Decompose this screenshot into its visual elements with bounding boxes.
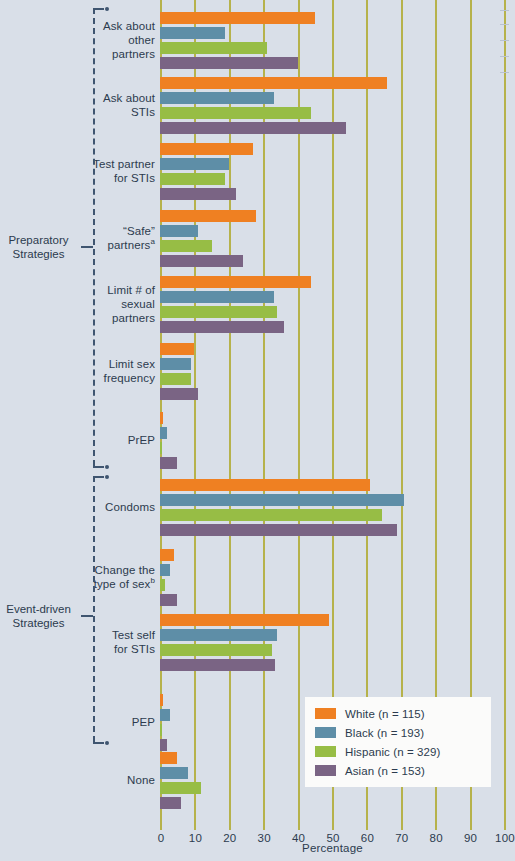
bar <box>160 57 298 69</box>
x-tick-label-40: 40 <box>292 832 305 844</box>
bar <box>160 579 165 591</box>
bar <box>160 158 229 170</box>
bar-group <box>160 77 505 134</box>
category-label: Test selffor STIs <box>112 628 155 656</box>
bar <box>160 494 404 506</box>
bar <box>160 240 212 252</box>
bar-group <box>160 343 505 400</box>
page-edge-mark <box>500 24 509 25</box>
legend-label: Asian (n = 153) <box>345 765 425 777</box>
bar <box>160 739 167 751</box>
category-label: None <box>127 773 155 787</box>
legend-item: White (n = 115) <box>315 704 482 723</box>
bar-group <box>160 479 505 536</box>
bar <box>160 659 275 671</box>
group-bracket-dot <box>105 741 109 745</box>
bar <box>160 210 256 222</box>
category-label: Ask aboutotherpartners <box>103 19 155 61</box>
category-label: Condoms <box>105 500 155 514</box>
bar-group <box>160 210 505 267</box>
x-tick-50 <box>332 818 334 830</box>
x-tick-label-20: 20 <box>223 832 236 844</box>
x-tick-label-80: 80 <box>430 832 443 844</box>
group-bracket-label: PreparatoryStrategies <box>0 233 77 261</box>
x-tick-20 <box>229 818 231 830</box>
legend-item: Black (n = 193) <box>315 723 482 742</box>
group-bracket-label: Event-drivenStrategies <box>0 602 77 630</box>
bar <box>160 358 191 370</box>
group-bracket-end <box>93 466 104 468</box>
bar <box>160 782 201 794</box>
bar <box>160 457 177 469</box>
bar <box>160 388 198 400</box>
bar <box>160 614 329 626</box>
bar <box>160 373 191 385</box>
bar-group <box>160 143 505 200</box>
bar <box>160 343 194 355</box>
bar <box>160 255 243 267</box>
plot-area <box>160 0 505 818</box>
group-bracket-connector <box>81 246 93 248</box>
group-bracket-end <box>93 8 104 10</box>
bar <box>160 752 177 764</box>
bar <box>160 797 181 809</box>
group-bracket-dot <box>105 465 109 469</box>
x-tick-label-0: 0 <box>158 832 165 844</box>
x-tick-label-90: 90 <box>464 832 477 844</box>
group-bracket-end <box>93 742 104 744</box>
bar <box>160 306 277 318</box>
group-bracket-dot <box>105 7 109 11</box>
bar-group <box>160 614 505 671</box>
bar <box>160 594 177 606</box>
bar <box>160 291 274 303</box>
bar <box>160 724 162 736</box>
legend-label: Hispanic (n = 329) <box>345 746 440 758</box>
x-tick-label-70: 70 <box>395 832 408 844</box>
bar <box>160 767 188 779</box>
bar-group <box>160 412 505 469</box>
bar <box>160 276 311 288</box>
legend-swatch-icon <box>315 765 336 776</box>
x-tick-80 <box>435 818 437 830</box>
category-label: Test partnerfor STIs <box>93 157 155 185</box>
x-tick-label-50: 50 <box>326 832 339 844</box>
group-bracket-line <box>93 476 95 742</box>
page-edge-mark <box>500 10 509 11</box>
category-label: Limit sexfrequency <box>104 357 155 385</box>
bar <box>160 629 277 641</box>
category-label: PEP <box>132 715 155 729</box>
bar <box>160 107 311 119</box>
x-tick-label-100: 100 <box>495 832 515 844</box>
chart-legend: White (n = 115)Black (n = 193)Hispanic (… <box>305 697 491 787</box>
bar <box>160 709 170 721</box>
legend-label: White (n = 115) <box>345 708 425 720</box>
x-tick-30 <box>263 818 265 830</box>
bar <box>160 509 382 521</box>
x-tick-label-30: 30 <box>258 832 271 844</box>
bar <box>160 173 225 185</box>
legend-item: Asian (n = 153) <box>315 761 482 780</box>
x-tick-label-60: 60 <box>361 832 374 844</box>
legend-label: Black (n = 193) <box>345 727 424 739</box>
page-edge-mark <box>500 40 509 41</box>
group-bracket-end <box>93 476 104 478</box>
legend-swatch-icon <box>315 708 336 719</box>
bar <box>160 412 163 424</box>
bar <box>160 27 225 39</box>
category-label: “Safe”partnersa <box>107 224 155 252</box>
bar <box>160 549 174 561</box>
bar <box>160 694 163 706</box>
bar <box>160 442 162 454</box>
x-tick-label-10: 10 <box>189 832 202 844</box>
bar <box>160 122 346 134</box>
bar <box>160 321 284 333</box>
bar <box>160 188 236 200</box>
bar <box>160 644 272 656</box>
page-edge-mark <box>500 56 509 57</box>
bar <box>160 42 267 54</box>
page-edge-mark <box>500 72 509 73</box>
bar <box>160 479 370 491</box>
x-tick-70 <box>401 818 403 830</box>
legend-item: Hispanic (n = 329) <box>315 742 482 761</box>
